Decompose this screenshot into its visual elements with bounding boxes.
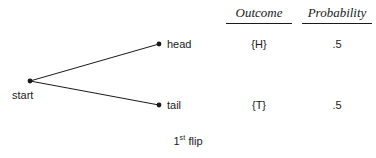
branch-start-to-head [30,44,159,81]
node-dot-head [157,42,162,47]
column-header-outcome: Outcome [226,6,292,24]
caption-ordinal-suffix: st [180,134,186,141]
node-dot-tail [157,103,162,108]
node-label-head: head [167,39,191,50]
node-dot-start [28,79,33,84]
cell-outcome-head: {H} [226,39,292,50]
figure-caption: 1stflip [0,134,376,147]
caption-word: flip [188,135,202,147]
node-label-start: start [12,90,33,101]
cell-outcome-tail: {T} [226,100,292,111]
column-header-outcome-rule [226,23,292,24]
column-header-probability: Probability [302,6,372,24]
cell-probability-head: .5 [302,39,372,50]
cell-probability-tail: .5 [302,100,372,111]
probability-tree-figure: start head tail Outcome Probability {H} … [0,0,376,158]
column-header-probability-text: Probability [308,5,367,20]
node-label-tail: tail [167,100,181,111]
column-header-outcome-text: Outcome [236,5,283,20]
branch-start-to-tail [30,81,159,105]
column-header-probability-rule [302,23,372,24]
